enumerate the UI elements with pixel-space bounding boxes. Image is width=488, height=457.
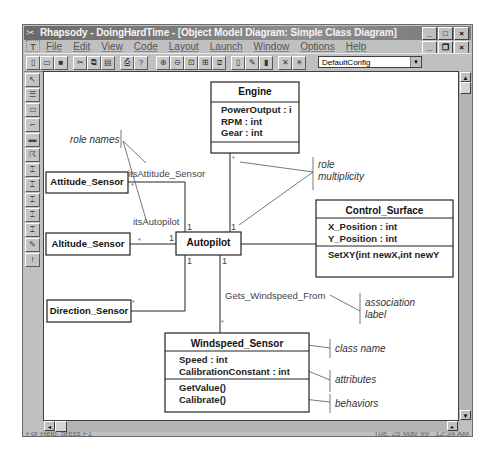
class-engine[interactable]	[211, 82, 299, 153]
association-attitude-autopilot[interactable]	[128, 182, 185, 232]
association-direction-autopilot[interactable]	[131, 255, 185, 311]
class-control-surface[interactable]	[316, 200, 453, 277]
class-diagram	[0, 0, 488, 457]
class-direction-sensor[interactable]	[47, 300, 131, 322]
class-windspeed-sensor[interactable]	[165, 333, 309, 412]
class-autopilot[interactable]	[176, 232, 241, 255]
class-altitude-sensor[interactable]	[46, 233, 130, 255]
class-attitude-sensor[interactable]	[46, 172, 128, 193]
